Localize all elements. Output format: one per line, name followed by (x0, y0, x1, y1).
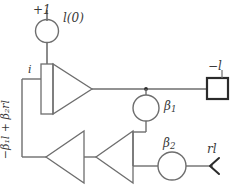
inverter-left-triangle[interactable] (46, 131, 84, 183)
beta2-symbol: β (163, 136, 170, 150)
integrator-bar (41, 64, 53, 114)
inverter-right-triangle[interactable] (96, 131, 133, 183)
initial-value-label: l(0) (63, 12, 84, 24)
output-label: −l (208, 60, 222, 72)
beta2-gain-circle[interactable] (158, 152, 186, 180)
integrator-input-label: i (28, 64, 32, 75)
feedback-expression-label: −β₁l + β₂rl (0, 100, 11, 159)
initial-condition-source-circle[interactable] (36, 20, 59, 43)
integrator-triangle[interactable] (53, 64, 92, 114)
output-block-square[interactable] (207, 78, 228, 99)
initial-condition-label: +1 (33, 4, 51, 16)
beta1-label: β1 (164, 100, 176, 114)
external-input-chevron-icon[interactable] (210, 158, 219, 174)
beta2-subscript: 2 (170, 141, 176, 151)
beta2-label: β2 (163, 137, 175, 151)
diagram-canvas: +1 l(0) i −l β1 β2 rl −β₁l + β₂rl (0, 0, 235, 185)
beta1-symbol: β (164, 99, 171, 113)
beta1-subscript: 1 (171, 104, 177, 114)
block-diagram-svg (0, 0, 235, 185)
beta1-gain-circle[interactable] (133, 95, 159, 121)
external-input-label: rl (207, 143, 217, 155)
